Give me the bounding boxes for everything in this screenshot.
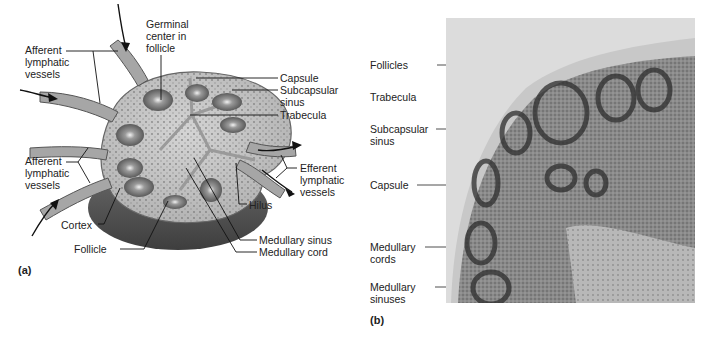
label-afferent-vessels-bottom: Afferent lymphatic vessels <box>25 155 69 191</box>
label-capsule-a: Capsule <box>280 72 319 84</box>
micrograph-tissue <box>446 18 695 303</box>
label-germinal-center: Germinal center in follicle <box>146 18 189 54</box>
panel-label-a: (a) <box>18 264 31 276</box>
label-cortex: Cortex <box>61 219 92 231</box>
label-afferent-vessels-top: Afferent lymphatic vessels <box>25 44 69 80</box>
label-capsule-b: Capsule <box>370 179 409 191</box>
label-follicles-b: Follicles <box>370 59 408 71</box>
label-medullary-sinuses: Medullary sinuses <box>370 281 416 305</box>
panel-label-b: (b) <box>370 314 384 326</box>
label-medullary-sinus: Medullary sinus <box>259 234 332 246</box>
label-trabecula-b: Trabecula <box>370 91 416 103</box>
label-medullary-cords: Medullary cords <box>370 241 416 265</box>
label-medullary-cord: Medullary cord <box>259 246 328 258</box>
label-subcapsular-sinus-a: Subcapsular sinus <box>280 84 338 108</box>
label-trabecula-a: Trabecula <box>280 109 326 121</box>
micrograph <box>446 18 695 303</box>
label-hilus: Hilus <box>249 199 272 211</box>
label-efferent-vessels: Efferent lymphatic vessels <box>300 162 344 198</box>
label-subcapsular-sinus-b: Subcapsular sinus <box>370 123 428 147</box>
label-follicle: Follicle <box>74 243 107 255</box>
